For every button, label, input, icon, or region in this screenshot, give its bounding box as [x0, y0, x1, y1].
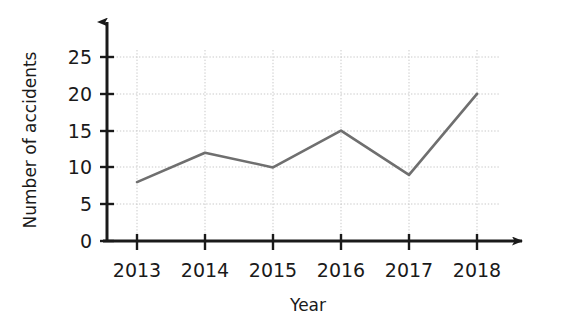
y-tick-label: 25	[68, 46, 92, 68]
y-tick-label: 5	[80, 193, 92, 215]
y-tick-label: 0	[80, 230, 92, 252]
chart-canvas: 25 20 15 10 5 0 2013 2014 2015 2016 2017…	[0, 0, 566, 334]
y-tick-label: 10	[68, 156, 92, 178]
y-tick-label: 15	[68, 120, 92, 142]
line-chart: 25 20 15 10 5 0 2013 2014 2015 2016 2017…	[0, 0, 566, 334]
x-tick-label: 2014	[181, 259, 229, 281]
x-axis-title: Year	[289, 295, 326, 315]
x-tick-label: 2013	[113, 259, 161, 281]
y-axis-title: Number of accidents	[20, 51, 40, 228]
y-tick-label: 20	[68, 83, 92, 105]
x-tick-label: 2018	[453, 259, 501, 281]
x-tick-label: 2017	[385, 259, 433, 281]
x-tick-label: 2016	[317, 259, 365, 281]
x-tick-label: 2015	[249, 259, 297, 281]
